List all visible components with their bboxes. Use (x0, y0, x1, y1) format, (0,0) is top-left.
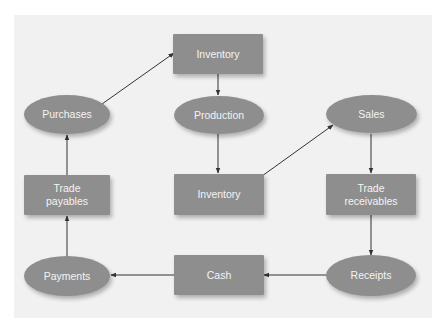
node-inventory-mid: Inventory (174, 174, 264, 215)
node-label: Receipts (351, 269, 392, 282)
node-label: Inventory (196, 48, 239, 61)
node-inventory-top: Inventory (173, 34, 263, 74)
node-label: Sales (358, 108, 384, 121)
arrow-inventory-to-sales (262, 125, 333, 176)
node-label: Cash (207, 269, 232, 282)
arrow-purchases-to-inventory (102, 53, 174, 104)
node-label: Trade receivables (344, 182, 397, 208)
node-trade-payables: Trade payables (24, 175, 110, 215)
node-receipts: Receipts (326, 255, 416, 296)
node-label: Payments (44, 270, 91, 283)
node-sales: Sales (326, 95, 417, 133)
node-label: Inventory (197, 188, 240, 201)
node-label: Trade payables (46, 182, 88, 208)
node-label: Purchases (42, 108, 92, 121)
node-label: Production (194, 109, 244, 122)
node-purchases: Purchases (24, 95, 110, 134)
node-production: Production (174, 96, 264, 134)
node-trade-receivables: Trade receivables (326, 174, 416, 215)
node-payments: Payments (24, 256, 110, 296)
node-cash: Cash (174, 255, 264, 295)
